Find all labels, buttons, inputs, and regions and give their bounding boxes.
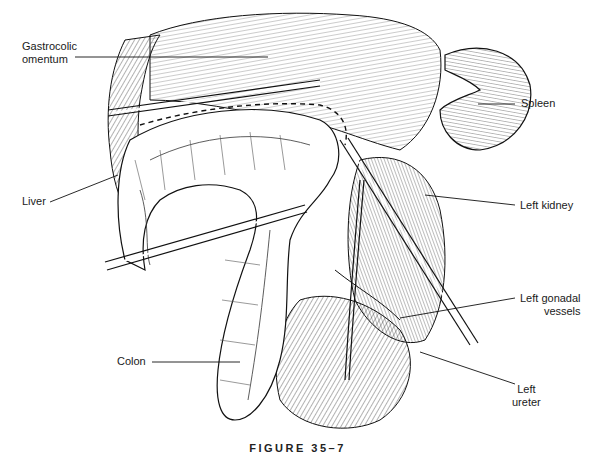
label-left-kidney: Left kidney — [520, 199, 573, 212]
label-left-ureter: Left ureter — [512, 383, 541, 409]
anatomical-figure: Gastrocolic omentum Spleen Liver Left ki… — [0, 0, 595, 462]
leader-liver — [50, 175, 118, 202]
label-gastrocolic-omentum: Gastrocolic omentum — [22, 40, 77, 66]
surgical-illustration — [0, 0, 595, 462]
spleen-shape — [440, 48, 531, 150]
leader-left-ureter — [420, 352, 515, 384]
figure-caption: FIGURE 35–7 — [0, 442, 595, 454]
label-left-gonadal-vessels: Left gonadal vessels — [520, 292, 581, 318]
label-spleen: Spleen — [521, 97, 555, 110]
label-liver: Liver — [22, 195, 46, 208]
label-colon: Colon — [117, 355, 146, 368]
